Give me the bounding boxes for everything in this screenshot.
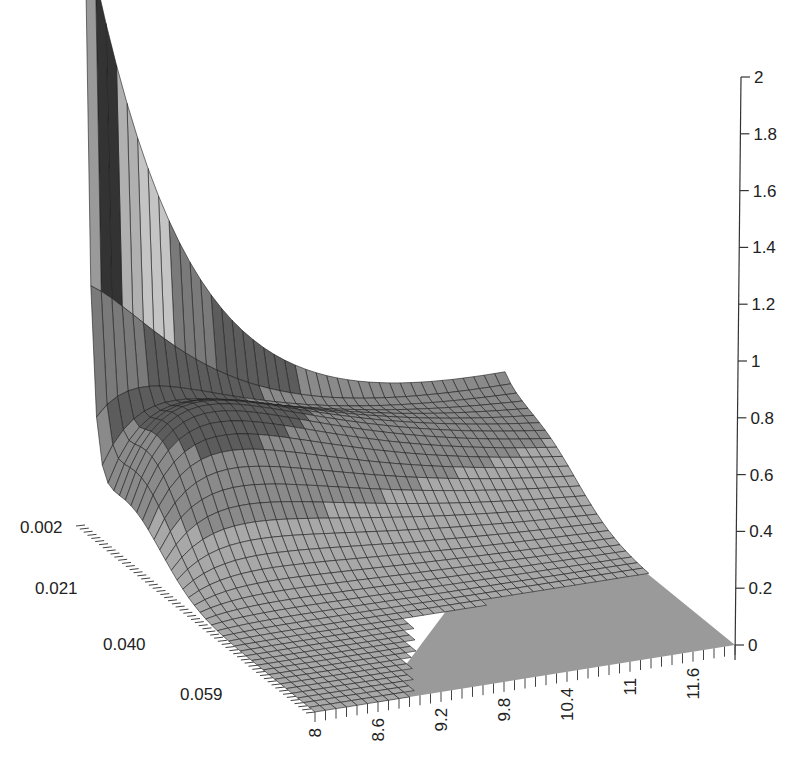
y-tick-label: 0.040	[103, 635, 146, 654]
x-tick-label: 11.6	[684, 668, 703, 700]
z-tick-label: 0.6	[750, 466, 774, 485]
x-tick-label: 8.6	[369, 718, 388, 742]
surface-plot: 00.20.40.60.811.21.41.61.82 0.0020.0210.…	[0, 0, 809, 777]
z-tick-label: 2	[754, 68, 763, 87]
z-tick-label: 1.4	[752, 238, 776, 257]
z-tick-label: 1.6	[753, 182, 777, 201]
z-tick-label: 1.2	[752, 295, 776, 314]
y-tick-label: 0.021	[35, 579, 78, 598]
z-tick-label: 0.2	[749, 579, 773, 598]
x-tick-label: 9.2	[432, 708, 451, 732]
z-axis: 00.20.40.60.811.21.41.61.82	[735, 68, 777, 660]
x-tick-label: 8	[306, 728, 325, 737]
x-tick-label: 10.4	[558, 688, 577, 721]
z-tick-label: 0.8	[750, 409, 774, 428]
surface-mesh	[85, 0, 735, 712]
x-tick-label: 11	[621, 678, 640, 696]
y-tick-label: 0.059	[180, 685, 223, 704]
x-tick-label: 9.8	[495, 698, 514, 722]
z-tick-label: 1	[751, 352, 760, 371]
z-tick-label: 0	[748, 636, 757, 655]
y-tick-label: 0.002	[20, 518, 63, 537]
z-tick-label: 0.4	[749, 522, 773, 541]
z-tick-label: 1.8	[753, 125, 777, 144]
